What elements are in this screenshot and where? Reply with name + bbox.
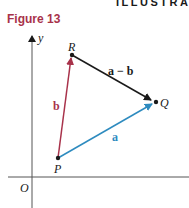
point-P-label: P: [53, 162, 62, 176]
vector-a-label: a: [112, 130, 118, 144]
vector-a-minus-b-label: a − b: [108, 64, 134, 78]
point-P: [56, 156, 60, 160]
y-axis-label: y: [37, 31, 44, 45]
point-Q: [154, 100, 158, 104]
vector-b: [58, 58, 71, 158]
vector-b-label: b: [53, 99, 60, 113]
point-R-label: R: [67, 40, 76, 54]
vector-diagram: y O R Q P b a a − b: [0, 0, 189, 208]
vector-a: [58, 104, 152, 158]
point-Q-label: Q: [160, 96, 169, 110]
origin-label: O: [20, 181, 29, 195]
